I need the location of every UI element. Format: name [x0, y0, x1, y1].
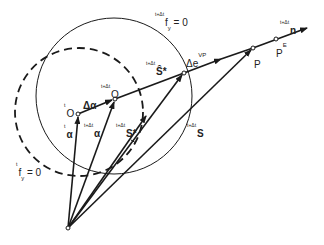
label-yield-surface-previous: tfy = 0	[16, 163, 41, 179]
stress-space-diagram	[0, 0, 324, 245]
label-P: P	[254, 55, 261, 71]
label-tdt-S-hat-star: t+ΔtŜ*	[146, 62, 167, 78]
label-tdt-alpha: t+Δtα	[84, 124, 100, 140]
label-tdt-S: t+ΔtS	[187, 124, 204, 140]
label-yield-surface-current: t+Δtfy = 0	[155, 13, 188, 29]
vector-tdt-alpha	[68, 102, 114, 228]
point-tO	[76, 112, 80, 116]
label-tdt-S-star: t+ΔtS*	[116, 124, 137, 140]
point-PE	[274, 37, 278, 41]
label-tdtO: t+ΔtO	[101, 85, 119, 101]
point-S-hat-star	[182, 71, 186, 75]
label-PE: PE	[276, 44, 287, 60]
label-tdt-n: t+Δtn	[280, 21, 296, 37]
label-tO: tO	[64, 104, 74, 120]
label-t-alpha: tα	[64, 125, 73, 141]
point-origin	[66, 226, 70, 230]
label-delta-alpha: Δα	[83, 96, 96, 112]
label-delta-e-vp: ΔeVP	[186, 54, 206, 70]
point-P	[251, 46, 255, 50]
